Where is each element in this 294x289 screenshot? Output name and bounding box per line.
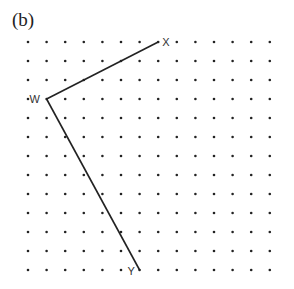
grid-dot (45, 117, 48, 120)
grid-dot (120, 193, 123, 196)
grid-dot (269, 41, 272, 44)
grid-dot (269, 193, 272, 196)
grid-dot (231, 231, 234, 234)
grid-dot (269, 155, 272, 158)
grid-dot (138, 193, 141, 196)
grid-dot (45, 193, 48, 196)
grid-dot (176, 136, 179, 139)
grid-dot (83, 136, 86, 139)
grid-dot (176, 155, 179, 158)
grid-dot (83, 174, 86, 177)
grid-dot (231, 41, 234, 44)
grid-dot (269, 231, 272, 234)
grid-dot (45, 250, 48, 253)
grid-dot (83, 212, 86, 215)
grid-dot (138, 174, 141, 177)
segment-wy (47, 99, 140, 270)
grid-dot (231, 79, 234, 82)
grid-dot (269, 269, 272, 272)
grid-dot (250, 193, 253, 196)
grid-dot (138, 136, 141, 139)
grid-dot (157, 155, 160, 158)
grid-dot (64, 174, 67, 177)
grid-dot (83, 60, 86, 63)
grid-dots (27, 41, 271, 272)
grid-dot (83, 231, 86, 234)
grid-dot (250, 174, 253, 177)
grid-dot (120, 212, 123, 215)
grid-dot (27, 250, 30, 253)
grid-dot (157, 193, 160, 196)
grid-dot (269, 212, 272, 215)
grid-dot (231, 193, 234, 196)
grid-dot (157, 98, 160, 101)
grid-dot (194, 98, 197, 101)
grid-dot (101, 231, 104, 234)
grid-dot (83, 155, 86, 158)
grid-dot (250, 269, 253, 272)
grid-dot (64, 117, 67, 120)
grid-dot (231, 155, 234, 158)
grid-dot (157, 250, 160, 253)
grid-dot (231, 136, 234, 139)
grid-dot (231, 174, 234, 177)
grid-dot (157, 269, 160, 272)
grid-dot (120, 98, 123, 101)
grid-dot (213, 212, 216, 215)
grid-dot (101, 269, 104, 272)
grid-dot (27, 174, 30, 177)
grid-dot (250, 231, 253, 234)
grid-dot (250, 79, 253, 82)
grid-dot (27, 155, 30, 158)
grid-dot (194, 60, 197, 63)
grid-dot (64, 41, 67, 44)
grid-dot (213, 231, 216, 234)
grid-dot (213, 174, 216, 177)
grid-dot (176, 60, 179, 63)
grid-dot (269, 117, 272, 120)
grid-dot (120, 269, 123, 272)
grid-dot (120, 41, 123, 44)
grid-dot (213, 136, 216, 139)
grid-dot (213, 269, 216, 272)
grid-dot (64, 155, 67, 158)
grid-dot (213, 193, 216, 196)
grid-dot (27, 136, 30, 139)
grid-dot (176, 79, 179, 82)
grid-dot (157, 79, 160, 82)
grid-dot (231, 98, 234, 101)
grid-dot (213, 79, 216, 82)
grid-dot (157, 174, 160, 177)
point-label-w: W (30, 93, 41, 105)
grid-dot (120, 136, 123, 139)
grid-dot (101, 250, 104, 253)
grid-dot (157, 212, 160, 215)
grid-dot (231, 212, 234, 215)
grid-dot (101, 79, 104, 82)
grid-dot (83, 269, 86, 272)
grid-dot (138, 250, 141, 253)
grid-dot (231, 117, 234, 120)
grid-dot (138, 98, 141, 101)
grid-dot (27, 79, 30, 82)
grid-dot (101, 174, 104, 177)
grid-dot (64, 269, 67, 272)
grid-dot (269, 174, 272, 177)
grid-dot (269, 136, 272, 139)
grid-dot (101, 98, 104, 101)
grid-dot (27, 117, 30, 120)
grid-dot (83, 250, 86, 253)
grid-dot (157, 231, 160, 234)
grid-dot (176, 41, 179, 44)
grid-dot (194, 117, 197, 120)
grid-dot (269, 60, 272, 63)
grid-dot (101, 155, 104, 158)
grid-dot (213, 60, 216, 63)
grid-dot (138, 155, 141, 158)
grid-dot (250, 136, 253, 139)
grid-dot (138, 60, 141, 63)
grid-dot (101, 136, 104, 139)
grid-dot (231, 269, 234, 272)
segment-wx (47, 42, 159, 99)
grid-dot (194, 136, 197, 139)
